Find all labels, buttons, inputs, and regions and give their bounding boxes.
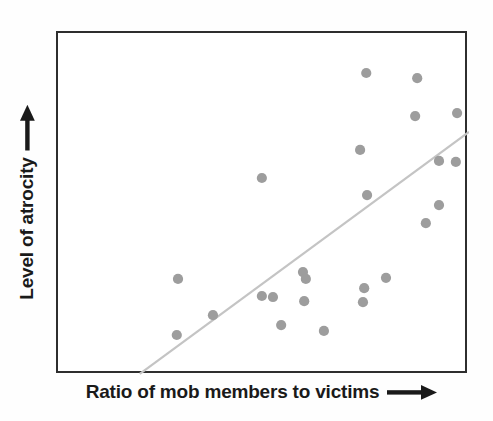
data-point xyxy=(257,173,267,183)
data-point xyxy=(452,108,462,118)
data-point xyxy=(301,274,311,284)
right-arrow-icon xyxy=(387,385,437,400)
plot-area xyxy=(56,31,467,373)
data-point xyxy=(355,145,365,155)
data-point xyxy=(361,68,371,78)
up-arrow-icon xyxy=(20,104,35,150)
trend-line xyxy=(140,132,469,374)
y-axis-label-container: Level of atrocity xyxy=(0,31,54,373)
data-point xyxy=(381,273,391,283)
data-point xyxy=(299,296,309,306)
x-axis-label-text: Ratio of mob members to victims xyxy=(86,381,380,403)
x-axis-label: Ratio of mob members to victims xyxy=(56,381,467,403)
data-point xyxy=(173,274,183,284)
y-axis-label: Level of atrocity xyxy=(16,104,38,299)
data-point xyxy=(362,190,372,200)
data-point xyxy=(359,283,369,293)
data-point xyxy=(358,297,368,307)
plot-canvas xyxy=(58,33,469,375)
data-point xyxy=(412,73,422,83)
data-points-group xyxy=(172,68,463,340)
scatter-plot-figure: Level of atrocity Ratio of mob members t… xyxy=(0,0,493,421)
data-point xyxy=(257,291,267,301)
trend-line-group xyxy=(140,132,469,374)
data-point xyxy=(434,200,444,210)
data-point xyxy=(410,111,420,121)
data-point xyxy=(172,330,182,340)
data-point xyxy=(451,157,461,167)
data-point xyxy=(268,292,278,302)
data-point xyxy=(319,326,329,336)
data-point xyxy=(276,320,286,330)
y-axis-label-text: Level of atrocity xyxy=(16,157,38,299)
data-point xyxy=(208,310,218,320)
data-point xyxy=(434,156,444,166)
data-point xyxy=(421,218,431,228)
